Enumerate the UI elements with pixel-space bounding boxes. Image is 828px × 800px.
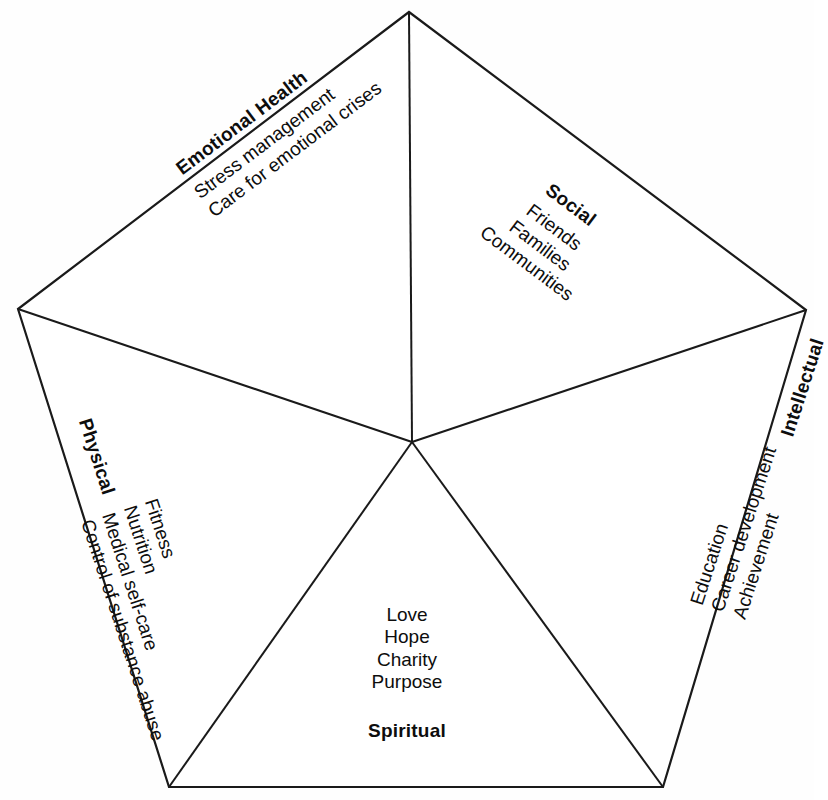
sector-title-spiritual: Spiritual [0,720,814,742]
sector-items-spiritual: Love Hope Charity Purpose [0,604,814,694]
sector-item: Charity [0,649,814,671]
sector-label-spiritual: Love Hope Charity Purpose Spiritual [0,604,814,742]
sector-item: Hope [0,626,814,648]
sector-item: Love [0,604,814,626]
sector-item: Purpose [0,671,814,693]
